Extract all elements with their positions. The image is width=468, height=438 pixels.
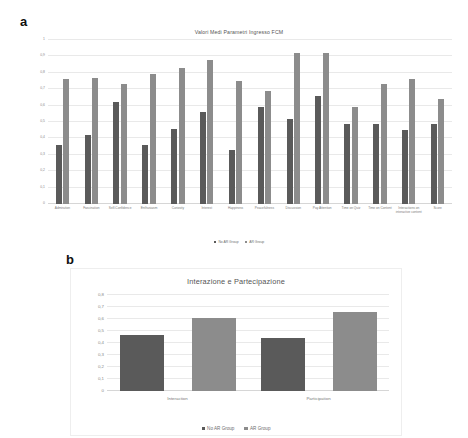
bar-no-ar-group	[258, 107, 264, 204]
legend-label: AR Group	[250, 426, 270, 431]
bar-ar-group	[381, 84, 387, 204]
y-axis-tick-label: 0,5	[40, 119, 48, 123]
legend-swatch-icon	[244, 427, 248, 431]
x-axis-tick-label: Pay Attention	[307, 204, 337, 211]
y-axis-tick-label: 0,2	[40, 168, 48, 172]
chart-b-plot-area: 00,10,20,30,40,50,60,70,8 InteractionPar…	[107, 295, 389, 391]
bar-no-ar-group	[402, 130, 408, 204]
bar-ar-group	[179, 68, 185, 204]
y-axis-tick-label: 0,1	[40, 185, 48, 189]
bar-ar-group	[265, 91, 271, 204]
y-axis-tick-label: 0,4	[98, 340, 107, 345]
bar-group: Time on Quiz	[337, 40, 366, 204]
bar-no-ar-group	[85, 135, 91, 204]
y-axis-tick-label: 0,6	[40, 103, 48, 107]
bar-no-ar-group	[56, 145, 62, 204]
bar-no-ar-group	[287, 119, 293, 204]
x-axis-tick-label: Score	[423, 204, 453, 211]
y-axis-tick-label: 0,7	[98, 304, 107, 309]
chart-a-plot-area: 00,10,20,30,40,50,60,70,80,91 Admiration…	[48, 40, 452, 204]
x-axis-tick-label: Enthusiasm	[134, 204, 164, 211]
bar-group: Enthusiasm	[135, 40, 164, 204]
y-axis-tick-label: 0,7	[40, 86, 48, 90]
bar-ar-group	[438, 99, 444, 204]
legend-item: No AR Group	[214, 240, 239, 244]
y-axis-tick-label: 0,5	[98, 328, 107, 333]
x-axis-tick-label: Fascination	[76, 204, 106, 211]
legend-label: AR Group	[249, 240, 264, 244]
x-axis-tick-label: Peacefulness	[249, 204, 279, 211]
bar-group: Self-Confidence	[106, 40, 135, 204]
bar-group: Time on Content	[365, 40, 394, 204]
chart-a-title: Valori Medi Parametri Ingresso FCM	[18, 29, 460, 35]
y-axis-tick-label: 0,8	[98, 292, 107, 297]
chart-valori-medi-parametri-ingresso-fcm: Valori Medi Parametri Ingresso FCM 00,10…	[18, 28, 460, 244]
legend-swatch-icon	[245, 241, 248, 244]
bar-no-ar-group	[200, 112, 206, 204]
bar-ar-group	[352, 107, 358, 204]
bar-no-ar-group	[113, 102, 119, 204]
bar-group: Curiosity	[163, 40, 192, 204]
bar-ar-group	[63, 79, 69, 204]
legend-label: No AR Group	[218, 240, 238, 244]
bar-ar-group	[192, 318, 236, 391]
legend-item: No AR Group	[202, 426, 235, 431]
x-axis-tick-label: Interactions on interactive content	[394, 204, 424, 214]
figure-panel-a: a Valori Medi Parametri Ingresso FCM 00,…	[0, 0, 468, 248]
x-axis-tick-label: Admiration	[47, 204, 77, 211]
legend-item: AR Group	[245, 240, 265, 244]
bar-group: Happiness	[221, 40, 250, 204]
bar-group: Admiration	[48, 40, 77, 204]
bar-group: Discussion	[279, 40, 308, 204]
bar-no-ar-group	[229, 150, 235, 204]
bar-no-ar-group	[431, 124, 437, 204]
y-axis-tick-label: 0,9	[40, 53, 48, 57]
y-axis-tick-label: 0,8	[40, 70, 48, 74]
bar-group: Fascination	[77, 40, 106, 204]
x-axis-tick-label: Interaction	[138, 391, 218, 401]
bar-ar-group	[207, 60, 213, 204]
legend-swatch-icon	[202, 427, 206, 431]
x-axis-tick-label: Time on Content	[365, 204, 395, 211]
x-axis-tick-label: Self-Confidence	[105, 204, 135, 211]
bar-group: Interactions on interactive content	[394, 40, 423, 204]
bar-group: Interaction	[107, 295, 248, 391]
legend-swatch-icon	[214, 241, 217, 244]
chart-b-title: Interazione e Partecipazione	[71, 277, 401, 286]
chart-a-bar-groups: AdmirationFascinationSelf-ConfidenceEnth…	[48, 40, 452, 204]
bar-no-ar-group	[344, 124, 350, 204]
bar-ar-group	[150, 74, 156, 204]
figure-panel-b: b Interazione e Partecipazione 00,10,20,…	[0, 248, 468, 438]
chart-a-legend: No AR GroupAR Group	[18, 240, 460, 244]
bar-no-ar-group	[261, 338, 305, 391]
bar-group: Participation	[248, 295, 389, 391]
chart-b-bar-groups: InteractionParticipation	[107, 295, 389, 391]
bar-ar-group	[121, 84, 127, 204]
bar-no-ar-group	[315, 96, 321, 204]
bar-ar-group	[294, 53, 300, 204]
y-axis-tick-label: 0,6	[98, 316, 107, 321]
bar-no-ar-group	[373, 124, 379, 204]
y-axis-tick-label: 0,3	[98, 352, 107, 357]
bar-no-ar-group	[171, 129, 177, 204]
bar-group: Score	[423, 40, 452, 204]
x-axis-tick-label: Time on Quiz	[336, 204, 366, 211]
y-axis-tick-label: 0,1	[98, 376, 107, 381]
bar-ar-group	[236, 81, 242, 204]
bar-ar-group	[409, 79, 415, 204]
x-axis-tick-label: Happiness	[221, 204, 251, 211]
x-axis-tick-label: Interest	[192, 204, 222, 211]
bar-no-ar-group	[142, 145, 148, 204]
bar-ar-group	[92, 78, 98, 204]
chart-b-legend: No AR GroupAR Group	[71, 426, 401, 431]
legend-label: No AR Group	[207, 426, 234, 431]
y-axis-tick-label: 0,4	[40, 135, 48, 139]
y-axis-tick-label: 0,2	[98, 364, 107, 369]
x-axis-tick-label: Participation	[279, 391, 359, 401]
bar-ar-group	[333, 312, 377, 391]
x-axis-tick-label: Curiosity	[163, 204, 193, 211]
panel-letter-b: b	[66, 252, 74, 267]
bar-ar-group	[323, 53, 329, 204]
legend-item: AR Group	[244, 426, 270, 431]
bar-no-ar-group	[120, 335, 164, 391]
